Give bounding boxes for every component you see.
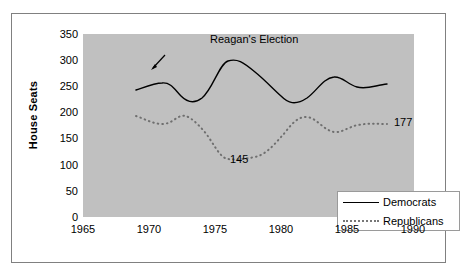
x-tick-1990: 1990 xyxy=(391,223,435,235)
x-tick-1975: 1975 xyxy=(193,223,237,235)
chart-frame: House Seats 350 300 250 200 150 100 50 0 xyxy=(11,13,446,263)
x-tick-1985: 1985 xyxy=(325,223,369,235)
x-tick-1965: 1965 xyxy=(61,223,105,235)
x-tick-1980: 1980 xyxy=(259,223,303,235)
chart-plot-wrapper: House Seats 350 300 250 200 150 100 50 0 xyxy=(12,14,447,264)
x-tick-1970: 1970 xyxy=(127,223,171,235)
x-axis-tick-labels: 1965 1970 1975 1980 1985 1990 xyxy=(12,14,447,264)
